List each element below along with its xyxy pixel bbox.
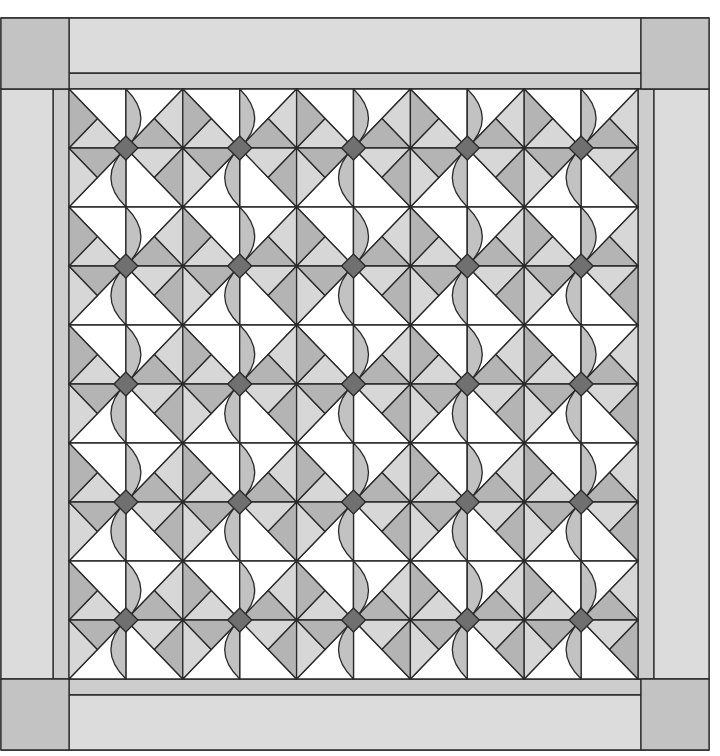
quilt-diagram xyxy=(0,0,720,756)
corner-square-bottom-right xyxy=(641,679,709,750)
inner-strip-left xyxy=(53,89,69,679)
inner-strip-right xyxy=(638,89,654,679)
corner-square-top-left xyxy=(1,18,69,89)
corner-square-top-right xyxy=(641,18,709,89)
border-left xyxy=(1,89,53,679)
border-bottom xyxy=(69,695,641,750)
border-right xyxy=(654,89,709,679)
inner-strip-top xyxy=(69,73,641,89)
border-top xyxy=(69,18,641,73)
inner-strip-bottom xyxy=(69,679,641,695)
corner-square-bottom-left xyxy=(1,679,69,750)
